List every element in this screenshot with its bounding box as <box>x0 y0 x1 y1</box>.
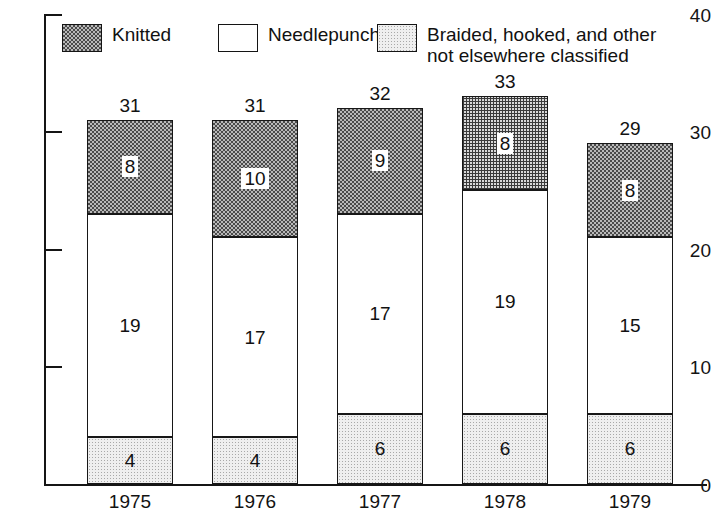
segment-value-1975-knitted: 8 <box>122 156 139 177</box>
bar-segment-1977-braided[interactable]: 6 <box>337 414 423 485</box>
bar-segment-1978-knitted[interactable]: 8 <box>462 96 548 190</box>
segment-value-1977-braided: 6 <box>372 438 389 459</box>
bar-1979[interactable]: 6158 <box>587 143 673 484</box>
bar-segment-1975-needlepunch[interactable]: 19 <box>87 214 173 437</box>
bar-total-label-1976: 31 <box>212 96 298 115</box>
plot-area: 4198314171031617932619833615829 <box>44 14 707 484</box>
x-axis-line <box>44 484 707 486</box>
segment-value-1975-braided: 4 <box>122 450 139 471</box>
x-tick-label-1979: 1979 <box>587 492 673 511</box>
bar-1977[interactable]: 6179 <box>337 108 423 484</box>
bar-segment-1976-needlepunch[interactable]: 17 <box>212 237 298 437</box>
bar-total-label-1978: 33 <box>462 72 548 91</box>
x-tick-label-1976: 1976 <box>212 492 298 511</box>
bar-segment-1979-knitted[interactable]: 8 <box>587 143 673 237</box>
bar-segment-1977-needlepunch[interactable]: 17 <box>337 214 423 414</box>
bar-segment-1977-knitted[interactable]: 9 <box>337 108 423 214</box>
bar-total-label-1979: 29 <box>587 119 673 138</box>
bar-segment-1976-knitted[interactable]: 10 <box>212 120 298 238</box>
bar-1978[interactable]: 6198 <box>462 96 548 484</box>
segment-value-1975-needlepunch: 19 <box>116 315 143 336</box>
segment-value-1977-knitted: 9 <box>372 150 389 171</box>
segment-value-1979-needlepunch: 15 <box>616 315 643 336</box>
bar-segment-1978-braided[interactable]: 6 <box>462 414 548 485</box>
segment-value-1979-braided: 6 <box>622 438 639 459</box>
segment-value-1976-braided: 4 <box>247 450 264 471</box>
x-tick-label-1978: 1978 <box>462 492 548 511</box>
segment-value-1976-needlepunch: 17 <box>241 327 268 348</box>
x-tick-label-1977: 1977 <box>337 492 423 511</box>
bar-segment-1979-braided[interactable]: 6 <box>587 414 673 485</box>
bar-segment-1979-needlepunch[interactable]: 15 <box>587 237 673 413</box>
bar-segment-1978-needlepunch[interactable]: 19 <box>462 190 548 413</box>
bar-segment-1975-knitted[interactable]: 8 <box>87 120 173 214</box>
segment-value-1978-braided: 6 <box>497 438 514 459</box>
segment-value-1978-needlepunch: 19 <box>491 291 518 312</box>
x-tick-label-1975: 1975 <box>87 492 173 511</box>
bar-total-label-1975: 31 <box>87 96 173 115</box>
segment-value-1977-needlepunch: 17 <box>366 303 393 324</box>
segment-value-1978-knitted: 8 <box>497 133 514 154</box>
bar-1976[interactable]: 41710 <box>212 120 298 484</box>
stacked-bar-chart: 40 30 20 10 0 Knitted Needlepunch Braide… <box>0 0 711 521</box>
bar-1975[interactable]: 4198 <box>87 120 173 484</box>
y-tick-0 <box>46 484 62 486</box>
segment-value-1979-knitted: 8 <box>622 180 639 201</box>
bar-total-label-1977: 32 <box>337 84 423 103</box>
bar-segment-1975-braided[interactable]: 4 <box>87 437 173 484</box>
bar-segment-1976-braided[interactable]: 4 <box>212 437 298 484</box>
segment-value-1976-knitted: 10 <box>241 168 268 189</box>
